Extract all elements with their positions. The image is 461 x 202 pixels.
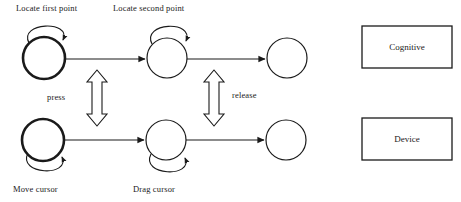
legend-label-device: Device xyxy=(362,135,452,144)
label-move-cursor: Move cursor xyxy=(13,185,58,194)
state-node-drag-cursor[interactable] xyxy=(146,120,186,160)
label-locate-second-point: Locate second point xyxy=(113,4,184,13)
link-arrow-release xyxy=(204,70,224,126)
state-node-locate-second-point[interactable] xyxy=(147,38,187,78)
label-transition-press: press xyxy=(47,93,65,102)
link-arrow-press xyxy=(87,70,107,126)
state-transition-diagram xyxy=(0,0,461,202)
state-node-cognitive-final[interactable] xyxy=(267,38,307,78)
state-node-locate-first-point[interactable] xyxy=(23,37,65,79)
state-node-device-final[interactable] xyxy=(266,120,306,160)
label-locate-first-point: Locate first point xyxy=(16,4,77,13)
state-node-move-cursor[interactable] xyxy=(22,119,64,161)
diagram-canvas: Locate first point Locate second point p… xyxy=(0,0,461,202)
legend-label-cognitive: Cognitive xyxy=(362,43,452,52)
label-drag-cursor: Drag cursor xyxy=(133,185,175,194)
label-transition-release: release xyxy=(232,91,257,100)
